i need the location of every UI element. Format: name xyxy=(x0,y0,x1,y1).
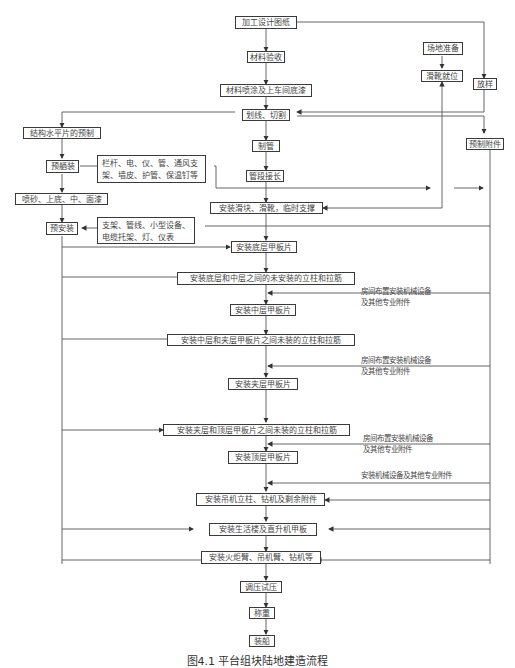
node-outfit-items: 栏杆、电、仪、管、通风支架、墙皮、护管、保温钉等 xyxy=(97,155,206,183)
node-cut: 划线、切割 xyxy=(242,109,290,121)
note-line: 及其他专业附件 xyxy=(363,444,433,455)
note-line: 及其他专业附件 xyxy=(361,297,431,308)
node-material-check: 材料验收 xyxy=(247,51,285,63)
node-blast-paint: 喷砂、上底、中、面漆 xyxy=(15,193,108,205)
node-layout: 放样 xyxy=(473,78,497,90)
note-line: 房间布置安装机械设备 xyxy=(361,355,431,366)
node-pre-install-items: 支架、管线、小型设备、电缆托架、灯、仪表 xyxy=(97,217,195,244)
node-prefab-parts: 预制附件 xyxy=(466,138,504,150)
node-material-paint: 材料喷涂及上车间底漆 xyxy=(220,84,312,97)
node-preassembly-outfit: 预舾装 xyxy=(46,160,79,173)
note-line: 房间布置安装机械设备 xyxy=(363,433,433,444)
node-pipe-make: 制管 xyxy=(252,140,280,152)
node-mid-mezz-columns: 安装中层和夹层甲板片之间未装的立柱和拉筋 xyxy=(167,334,355,346)
note-equip-misc: 安装机械设备及其他专业附件 xyxy=(361,470,452,481)
note-line: 房间布置安装机械设备 xyxy=(361,286,431,297)
note-line: 及其他专业附件 xyxy=(361,366,431,377)
node-top-deck: 安装顶层甲板片 xyxy=(228,451,298,464)
node-mezz-top-columns: 安装夹层和顶层甲板片之间未装的立柱和拉筋 xyxy=(163,424,350,436)
note-room-equip-3: 房间布置安装机械设备 及其他专业附件 xyxy=(363,433,433,455)
figure-caption: 图4.1 平台组块陆地建造流程 xyxy=(0,652,515,668)
node-bottom-mid-columns: 安装底层和中层之间的未安装的立柱和拉筋 xyxy=(177,272,355,285)
node-living-quarters: 安装生活楼及直升机甲板 xyxy=(209,523,317,536)
node-pressure-test: 调压试压 xyxy=(240,581,282,593)
node-crane-pedestal: 安装吊机立柱、钻机及剩余附件 xyxy=(196,493,325,506)
node-loadout: 装船 xyxy=(249,635,275,647)
node-mezz-deck: 安装夹层甲板片 xyxy=(228,378,298,390)
node-mid-deck: 安装中层甲板片 xyxy=(230,304,296,316)
node-skid-install: 安装滑块、滑靴，临时支撑 xyxy=(210,202,323,214)
node-design: 加工设计图纸 xyxy=(235,16,297,29)
node-pipe-extend: 管段接长 xyxy=(246,170,284,182)
node-skid-place: 滑靴就位 xyxy=(421,70,463,82)
node-site-prep: 场地准备 xyxy=(423,42,463,55)
node-flare-boom: 安装火炬臂、吊机臂、钻机等 xyxy=(201,551,321,564)
node-pre-install: 预安装 xyxy=(46,222,78,235)
node-struct-prefab: 结构水平片的预制 xyxy=(23,127,101,139)
node-weighing: 称重 xyxy=(249,607,275,619)
note-room-equip-2: 房间布置安装机械设备 及其他专业附件 xyxy=(361,355,431,377)
note-room-equip-1: 房间布置安装机械设备 及其他专业附件 xyxy=(361,286,431,308)
node-bottom-deck: 安装底层甲板片 xyxy=(231,241,297,253)
